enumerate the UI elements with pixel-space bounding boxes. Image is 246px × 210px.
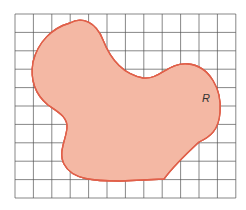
area-grid-diagram: R — [0, 0, 246, 210]
region-label: R — [202, 92, 210, 104]
